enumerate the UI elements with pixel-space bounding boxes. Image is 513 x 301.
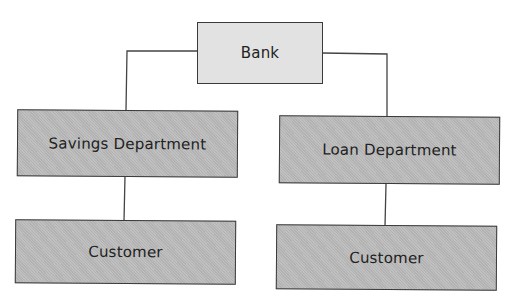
edge-loan-customer xyxy=(385,184,386,226)
edge-bank-loan xyxy=(322,53,387,117)
edge-savings-customer xyxy=(124,176,125,221)
node-savings-department: Savings Department xyxy=(17,109,238,178)
node-loan-customer: Customer xyxy=(276,224,497,291)
node-savings-customer-label: Customer xyxy=(88,243,163,262)
node-bank-label: Bank xyxy=(241,44,279,62)
edge-bank-savings xyxy=(126,51,197,110)
node-savings-customer: Customer xyxy=(15,219,236,285)
bank-org-diagram: Bank Savings Department Loan Department … xyxy=(0,0,513,301)
node-bank: Bank xyxy=(197,22,323,84)
node-loan-department-label: Loan Department xyxy=(322,141,457,160)
node-loan-department: Loan Department xyxy=(279,115,500,185)
node-loan-customer-label: Customer xyxy=(349,248,424,267)
node-savings-department-label: Savings Department xyxy=(49,134,207,153)
